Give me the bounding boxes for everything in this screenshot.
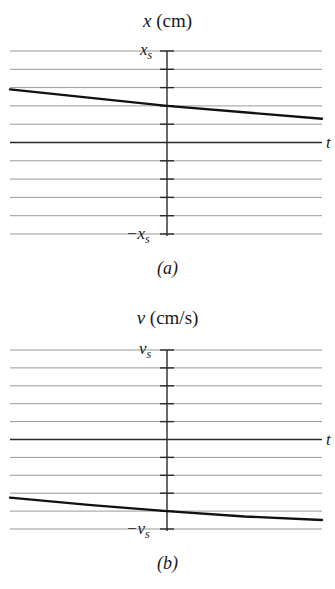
chart-b-xlabel: t (326, 430, 331, 450)
chart-panel-a: x (cm) xs −xs t (a) (0, 0, 335, 295)
chart-b-caption: (b) (0, 553, 335, 574)
chart-a-xlabel: t (326, 133, 331, 153)
chart-a-ymin-label: −xs (126, 224, 150, 247)
chart-a-plot (0, 0, 335, 295)
chart-b-ymax-label: vs (139, 339, 151, 362)
chart-panel-b: v (cm/s) vs −vs t (b) (0, 295, 335, 589)
chart-a-ymax-label: xs (140, 40, 152, 63)
chart-b-curve (10, 498, 322, 520)
chart-a-curve (10, 89, 322, 118)
chart-b-ymin-label: −vs (126, 519, 150, 542)
chart-b-plot (0, 295, 335, 589)
chart-a-caption: (a) (0, 258, 335, 279)
